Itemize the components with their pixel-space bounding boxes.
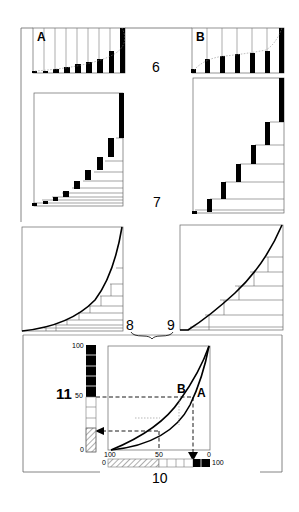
bar-tick-0: 0 bbox=[102, 459, 106, 466]
curve-b-label: B bbox=[177, 382, 186, 396]
panel-11-label: 11 bbox=[56, 385, 72, 402]
brace bbox=[131, 332, 173, 339]
panel-9-label: 9 bbox=[167, 317, 175, 333]
panel-10 bbox=[95, 346, 210, 461]
x-tick-100: 100 bbox=[104, 451, 116, 458]
panel-7-label: 7 bbox=[153, 194, 161, 210]
outer-frame bbox=[21, 28, 282, 472]
panel-8-label: 8 bbox=[126, 317, 134, 333]
diagram-canvas bbox=[0, 0, 299, 512]
header-a-label: A bbox=[37, 30, 46, 44]
panel-10-label: 10 bbox=[152, 470, 168, 486]
panel-11-bar bbox=[86, 345, 96, 452]
panel-7b bbox=[192, 78, 284, 214]
panel-9 bbox=[180, 225, 283, 330]
panel-8 bbox=[22, 227, 123, 331]
bar-tick-100: 100 bbox=[212, 459, 224, 466]
y-tick-0: 0 bbox=[80, 446, 84, 453]
header-b-label: B bbox=[196, 30, 205, 44]
x-tick-50: 50 bbox=[155, 451, 163, 458]
panel-6-label: 6 bbox=[152, 59, 160, 75]
curve-a-label: A bbox=[197, 386, 206, 400]
x-tick-0: 0 bbox=[207, 451, 211, 458]
panel-10-bar bbox=[108, 459, 210, 467]
y-tick-50: 50 bbox=[75, 392, 83, 399]
panel-7a bbox=[32, 93, 124, 206]
y-tick-100: 100 bbox=[72, 342, 84, 349]
